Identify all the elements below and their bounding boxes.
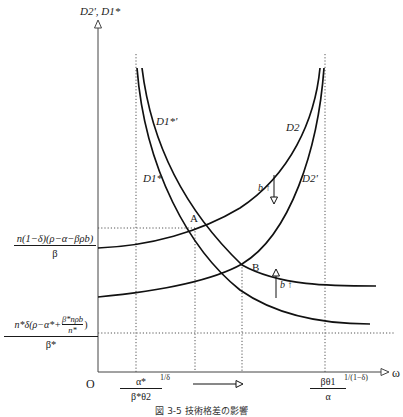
y-tick-upper-numerator: n(1−δ)(ρ−α−βρb) <box>14 233 96 245</box>
y-tick-lower: n*δ(ρ−α*+ β*nρb n* ) β* <box>4 314 98 350</box>
x-tick-right-numerator: βθ1 <box>310 376 346 388</box>
label-d1-star: D1* <box>143 173 162 184</box>
x-tick-left-numerator: α* <box>120 376 162 388</box>
label-d2: D2 <box>286 122 299 133</box>
x-tick-right: βθ1 α <box>310 376 346 402</box>
x-tick-right-exponent: 1/(1−δ) <box>344 374 368 382</box>
curve-d1-star-prime <box>142 68 376 286</box>
y-tick-upper: n(1−δ)(ρ−α−βρb) β <box>14 233 96 259</box>
omega-shift-arrowhead-icon <box>236 381 243 388</box>
x-tick-left-denominator: β*θ2 <box>120 389 162 402</box>
shift-up-annotation: b ↑ <box>280 280 293 290</box>
y-axis-arrow-icon <box>95 20 102 28</box>
label-d1-star-prime: D1*' <box>156 116 177 127</box>
origin-label: O <box>86 378 95 390</box>
point-a-label: A <box>190 213 198 224</box>
x-axis-label: ω <box>392 367 400 379</box>
x-tick-right-denominator: α <box>310 389 346 402</box>
label-d2-prime: D2' <box>302 173 318 184</box>
curve-d2 <box>98 68 320 248</box>
y-tick-lower-prefix: n*δ(ρ−α*+ <box>15 319 62 330</box>
shift-up-arrowhead-icon <box>273 269 280 276</box>
y-tick-lower-denominator: β* <box>4 337 98 350</box>
y-tick-lower-inner-denominator: n* <box>62 325 83 335</box>
y-tick-upper-denominator: β <box>14 246 96 259</box>
figure-caption: 図 3-5 技術格差の影響 <box>0 404 403 417</box>
y-tick-lower-inner-numerator: β*nρb <box>62 314 83 325</box>
x-tick-left-exponent: 1/δ <box>160 374 170 382</box>
point-b-label: B <box>252 262 259 273</box>
y-axis-label: D2', D1* <box>80 6 120 17</box>
x-axis-arrow-icon <box>381 369 389 376</box>
x-tick-left: α* β*θ2 <box>120 376 162 402</box>
shift-down-annotation: b ↑ <box>258 183 271 193</box>
shift-down-arrowhead-icon <box>271 197 278 204</box>
